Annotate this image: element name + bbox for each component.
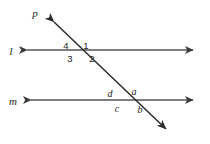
line-p-label: p [31, 7, 38, 19]
line-l-label: l [9, 45, 12, 57]
angle-label-d: d [108, 88, 114, 99]
angle-label-1: 1 [83, 40, 88, 51]
line-m-label: m [9, 95, 17, 107]
line-l-group: l [9, 45, 193, 57]
line-p-group: p [31, 7, 166, 129]
geometry-canvas: l m p 4 1 3 2 d a c b [0, 0, 210, 144]
angle-label-a: a [132, 86, 137, 97]
angle-label-b: b [138, 104, 143, 115]
angle-label-4: 4 [63, 40, 68, 51]
angle-label-c: c [115, 103, 120, 114]
line-p-transversal [54, 22, 166, 129]
geometry-diagram: l m p 4 1 3 2 d a c b [0, 0, 210, 144]
angle-label-2: 2 [89, 53, 94, 64]
line-m-group: m [9, 95, 193, 107]
angle-label-3: 3 [67, 53, 72, 64]
